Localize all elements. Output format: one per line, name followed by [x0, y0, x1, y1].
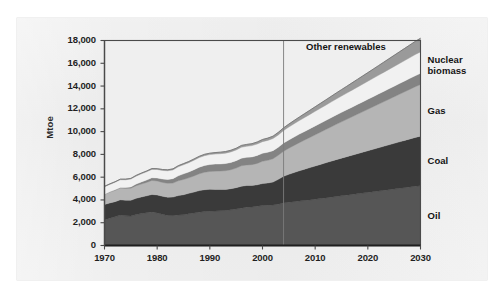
- y-tick-text: 18,000: [50, 34, 96, 45]
- y-tick-text: 6,000: [50, 171, 96, 182]
- y-tick-label-10000: 10,000: [50, 125, 96, 137]
- x-tick-label-2030: 2030: [399, 252, 443, 263]
- y-tick-text: 2,000: [50, 216, 96, 227]
- y-tick-text: 4,000: [50, 193, 96, 204]
- series-label-line: Coal: [428, 155, 449, 166]
- y-tick-label-8000: 8,000: [50, 148, 96, 160]
- y-tick-label-6000: 6,000: [50, 171, 96, 183]
- y-tick-text: 10,000: [50, 125, 96, 136]
- y-tick-text: 12,000: [50, 102, 96, 113]
- x-tick-label-1980: 1980: [135, 252, 179, 263]
- series-label-line: Nuclear: [428, 54, 467, 65]
- x-tick-label-1970: 1970: [83, 252, 127, 263]
- y-tick-text: 14,000: [50, 80, 96, 91]
- series-label-line: biomass: [428, 65, 467, 76]
- series-label-line: Gas: [428, 105, 446, 116]
- y-tick-text: 8,000: [50, 148, 96, 159]
- x-tick-label-1990: 1990: [188, 252, 232, 263]
- x-tick-label-2010: 2010: [293, 252, 337, 263]
- y-tick-text: 16,000: [50, 57, 96, 68]
- y-tick-label-16000: 16,000: [50, 57, 96, 69]
- x-tick-label-2020: 2020: [346, 252, 390, 263]
- x-tick-label-2000: 2000: [241, 252, 285, 263]
- y-tick-label-12000: 12,000: [50, 102, 96, 114]
- figure-root: Mtoe 18,00016,00014,00012,00010,0008,000…: [0, 0, 504, 296]
- y-tick-label-0: 0: [50, 239, 96, 251]
- series-label-coal: Coal: [428, 155, 449, 166]
- y-tick-text: 0: [50, 239, 96, 250]
- series-label-nuclear: Nuclearbiomass: [428, 54, 467, 76]
- y-tick-label-18000: 18,000: [50, 34, 96, 46]
- y-tick-label-4000: 4,000: [50, 193, 96, 205]
- annotation-other-renewables: Other renewables: [306, 41, 386, 52]
- y-tick-label-14000: 14,000: [50, 80, 96, 92]
- series-label-oil: Oil: [428, 210, 441, 221]
- series-label-gas: Gas: [428, 105, 446, 116]
- y-tick-label-2000: 2,000: [50, 216, 96, 228]
- series-label-line: Oil: [428, 210, 441, 221]
